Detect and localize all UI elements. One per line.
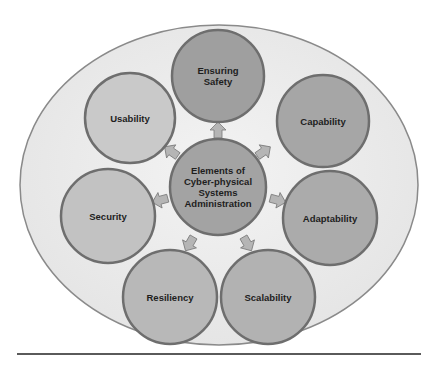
center-node-label: Elements ofCyber-physicalSystemsAdminist… [170, 139, 266, 235]
label-line: Usability [110, 113, 150, 124]
label-line: Safety [197, 76, 238, 87]
node-capability-label: Capability [277, 75, 369, 167]
label-line: Adaptability [303, 213, 357, 224]
label-line: Systems [184, 187, 252, 198]
node-security-label: Security [61, 169, 155, 263]
label-line: Capability [300, 116, 345, 127]
node-ensuring-safety-label: EnsuringSafety [172, 30, 264, 122]
bottom-rule-divider [17, 353, 421, 355]
label-line: Cyber-physical [184, 176, 252, 187]
label-line: Elements of [184, 165, 252, 176]
label-line: Administration [184, 198, 252, 209]
node-resiliency-label: Resiliency [123, 250, 217, 344]
label-line: Resiliency [147, 292, 194, 303]
cps-administration-diagram: EnsuringSafetyCapabilityAdaptabilityScal… [0, 0, 438, 371]
node-usability-label: Usability [85, 73, 175, 163]
label-line: Scalability [245, 292, 292, 303]
label-line: Ensuring [197, 65, 238, 76]
node-scalability-label: Scalability [221, 250, 315, 344]
label-line: Security [89, 211, 127, 222]
